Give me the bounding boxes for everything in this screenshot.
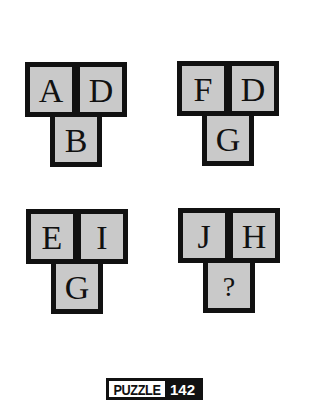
tile-letter: H — [242, 220, 267, 254]
tile-letter: F — [194, 73, 213, 107]
tile-top-right: I — [76, 209, 128, 264]
tile-bottom-unknown: ? — [203, 258, 255, 313]
letter-group-4: J H ? — [178, 208, 280, 313]
tile-bottom: G — [202, 111, 254, 166]
tile-top-left: F — [177, 61, 229, 116]
tile-top-right: D — [75, 62, 127, 117]
question-mark: ? — [223, 273, 235, 301]
tile-top-right: D — [227, 61, 279, 116]
puzzle-label: PUZZLE — [113, 381, 161, 397]
puzzle-number: 142 — [165, 381, 200, 397]
tile-letter: B — [65, 124, 88, 158]
letter-group-1: A D B — [25, 62, 127, 167]
tile-top-left: A — [25, 62, 77, 117]
letter-group-2: F D G — [177, 61, 279, 166]
tile-letter: G — [216, 123, 241, 157]
tile-letter: G — [65, 271, 90, 305]
tile-letter: D — [89, 74, 114, 108]
tile-letter: D — [241, 73, 266, 107]
tile-letter: I — [96, 221, 107, 255]
tile-bottom: B — [50, 112, 102, 167]
puzzle-badge: PUZZLE 142 — [106, 378, 203, 400]
tile-top-left: E — [26, 209, 78, 264]
tile-letter: A — [39, 74, 64, 108]
tile-top-right: H — [228, 208, 280, 263]
tile-top-left: J — [178, 208, 230, 263]
letter-group-3: E I G — [26, 209, 128, 314]
tile-letter: E — [42, 221, 63, 255]
tile-bottom: G — [51, 259, 103, 314]
tile-letter: J — [197, 220, 210, 254]
